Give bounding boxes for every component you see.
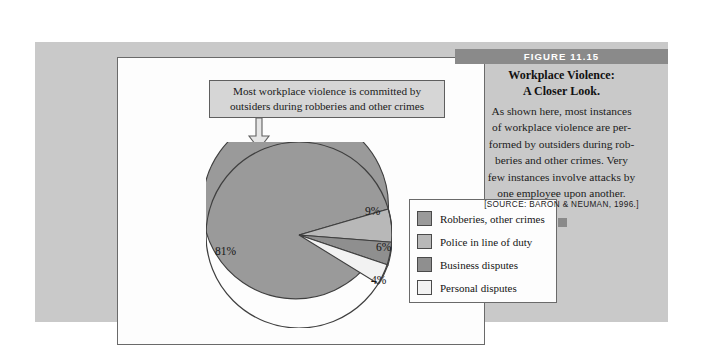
callout-line-2: outsiders during robberies and other cri… — [230, 99, 424, 114]
pie-chart — [206, 142, 392, 328]
pie-value-label-personal: 4% — [371, 274, 386, 286]
caption-title-line-1: Workplace Violence: — [455, 68, 668, 84]
caption-body-line-4: beries and other crimes. Very — [455, 152, 668, 168]
legend-swatch-robberies — [417, 211, 432, 226]
caption-body: As shown here, most instances of workpla… — [455, 103, 668, 202]
caption-source: [SOURCE: BARON & NEUMAN, 1996.] — [455, 200, 668, 209]
caption-body-line-3: formed by outsiders during rob- — [455, 136, 668, 152]
figure-number-bar: FIGURE 11.15 — [455, 49, 668, 64]
caption-title-line-2: A Closer Look. — [455, 84, 668, 100]
caption-title: Workplace Violence: A Closer Look. — [455, 68, 668, 100]
caption-body-line-5: few instances involve attacks by — [455, 169, 668, 185]
figure-number-label: FIGURE 11.15 — [524, 51, 600, 62]
caption-body-line-2: of workplace violence are per- — [455, 119, 668, 135]
legend-swatch-police — [417, 234, 432, 249]
pie-value-label-business: 6% — [376, 241, 391, 253]
callout-line-1: Most workplace violence is committed by — [233, 84, 421, 99]
figure-caption: FIGURE 11.15 Workplace Violence: A Close… — [455, 42, 668, 322]
legend-swatch-personal — [417, 280, 432, 295]
callout-annotation: Most workplace violence is committed by … — [209, 80, 445, 118]
chart-container: Most workplace violence is committed by … — [117, 57, 485, 345]
pie-value-label-robberies: 81% — [215, 245, 236, 257]
figure-gray-panel: Most workplace violence is committed by … — [35, 42, 668, 322]
caption-body-line-1: As shown here, most instances — [455, 103, 668, 119]
caption-end-mark — [558, 218, 567, 227]
legend-swatch-business — [417, 257, 432, 272]
pie-value-label-police: 9% — [365, 205, 380, 217]
